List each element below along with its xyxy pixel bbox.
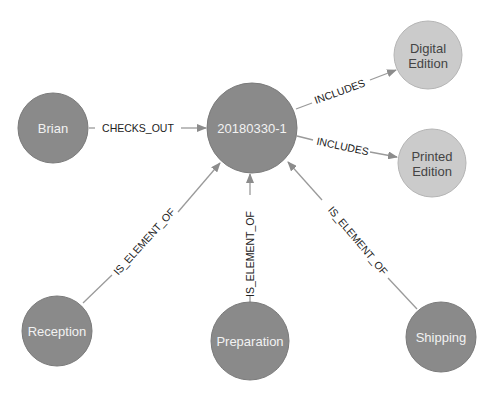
edge-includes-printed[interactable]: INCLUDES	[297, 135, 397, 158]
node-brian[interactable]: Brian	[18, 93, 88, 163]
node-label-order: 20180330-1	[217, 121, 286, 136]
edge-reception-element-of[interactable]: IS_ELEMENT_OF	[83, 163, 220, 303]
edge-preparation-element-of[interactable]: IS_ELEMENT_OF	[244, 174, 256, 302]
edge-label-shipping: IS_ELEMENT_OF	[326, 204, 390, 277]
node-label-brian: Brian	[38, 121, 68, 136]
node-reception[interactable]: Reception	[22, 296, 92, 366]
edge-checks-out[interactable]: CHECKS_OUT	[89, 122, 206, 134]
node-label-printed-line1: Printed	[411, 149, 452, 164]
node-label-preparation: Preparation	[216, 334, 283, 349]
edge-label-includes-digital: INCLUDES	[313, 77, 367, 106]
node-preparation[interactable]: Preparation	[211, 302, 289, 380]
edge-label-checks-out: CHECKS_OUT	[102, 122, 174, 134]
node-label-digital-line1: Digital	[410, 41, 446, 56]
edge-shipping-element-of[interactable]: IS_ELEMENT_OF	[288, 162, 417, 309]
edge-label-includes-printed: INCLUDES	[316, 135, 370, 158]
node-label-reception: Reception	[28, 324, 87, 339]
edge-label-preparation: IS_ELEMENT_OF	[244, 211, 256, 297]
node-order[interactable]: 20180330-1	[207, 83, 297, 173]
graph-canvas: CHECKS_OUT INCLUDES INCLUDES IS_ELEMENT_…	[0, 0, 497, 394]
edge-label-reception: IS_ELEMENT_OF	[111, 205, 177, 277]
node-label-digital-line2: Edition	[408, 56, 448, 71]
node-printed-edition[interactable]: Printed Edition	[398, 129, 466, 197]
edge-includes-digital[interactable]: INCLUDES	[296, 70, 396, 109]
node-digital-edition[interactable]: Digital Edition	[394, 21, 462, 89]
node-label-shipping: Shipping	[416, 330, 467, 345]
node-shipping[interactable]: Shipping	[406, 302, 476, 372]
node-label-printed-line2: Edition	[412, 164, 452, 179]
